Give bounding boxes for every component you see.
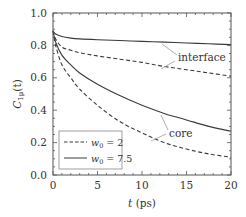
x-tick-label: 15 <box>180 179 193 191</box>
curve-3 <box>53 31 231 131</box>
y-tick-label: 0.8 <box>30 39 47 51</box>
y-tick-label: 1.0 <box>30 7 47 19</box>
y-tick-label: 0.0 <box>30 169 47 181</box>
y-tick-label: 0.4 <box>30 104 47 116</box>
y-tick-label: 0.6 <box>30 71 47 83</box>
core-label: core <box>169 127 192 139</box>
legend: w0 = 2 w0 = 7.5 <box>59 131 132 169</box>
y-axis-label: C1μ(t) <box>11 79 25 108</box>
x-axis-label: t (ps) <box>128 197 156 209</box>
interface-annotation: interface <box>161 44 226 69</box>
x-tick-label: 5 <box>94 179 101 191</box>
x-tick-label: 0 <box>50 179 57 191</box>
interface-label: interface <box>178 51 226 63</box>
curve-1 <box>53 31 231 45</box>
x-tick-label: 10 <box>135 179 148 191</box>
core-annotation: core <box>151 115 192 141</box>
x-tick-label: 20 <box>224 179 237 191</box>
correlation-chart: 051015200.00.20.40.60.81.0 interface cor… <box>0 0 246 217</box>
y-tick-label: 0.2 <box>30 136 47 148</box>
